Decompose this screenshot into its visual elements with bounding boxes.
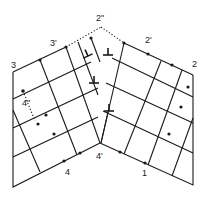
left-lattice xyxy=(13,38,100,187)
right-lattice xyxy=(100,43,193,185)
label-2-double-prime: 2" xyxy=(96,13,104,23)
burgers-circuit xyxy=(21,27,189,165)
label-3: 3 xyxy=(11,60,16,70)
dotted-segment-3prime-2dprime xyxy=(66,27,101,47)
point-labels: 3 3' 2" 2' 2 4" 4 4' 1 xyxy=(11,13,197,178)
dislocation-symbol-3 xyxy=(89,76,99,83)
label-2-prime: 2' xyxy=(145,35,152,45)
right-lattice-top-edge xyxy=(124,43,193,75)
dislocation-symbol-2 xyxy=(103,48,113,55)
label-1: 1 xyxy=(142,168,147,178)
label-4-prime: 4' xyxy=(96,151,103,161)
label-2: 2 xyxy=(192,59,197,69)
label-4-double-prime: 4" xyxy=(22,98,30,108)
dislocation-symbol-4 xyxy=(104,104,114,111)
grain-boundary-diagram: 3 3' 2" 2' 2 4" 4 4' 1 xyxy=(0,0,206,202)
left-lattice-border xyxy=(13,72,100,187)
label-4: 4 xyxy=(65,167,70,177)
dotted-segment-2dprime-2prime xyxy=(101,27,124,43)
label-3-prime: 3' xyxy=(50,38,57,48)
